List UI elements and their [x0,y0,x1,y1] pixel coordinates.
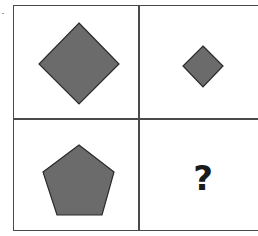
pentagon-shape [43,145,114,215]
question-mark: ? [188,158,218,198]
small-diamond-shape [183,46,223,87]
shapes-layer [0,0,258,236]
large-diamond-shape [39,23,119,104]
